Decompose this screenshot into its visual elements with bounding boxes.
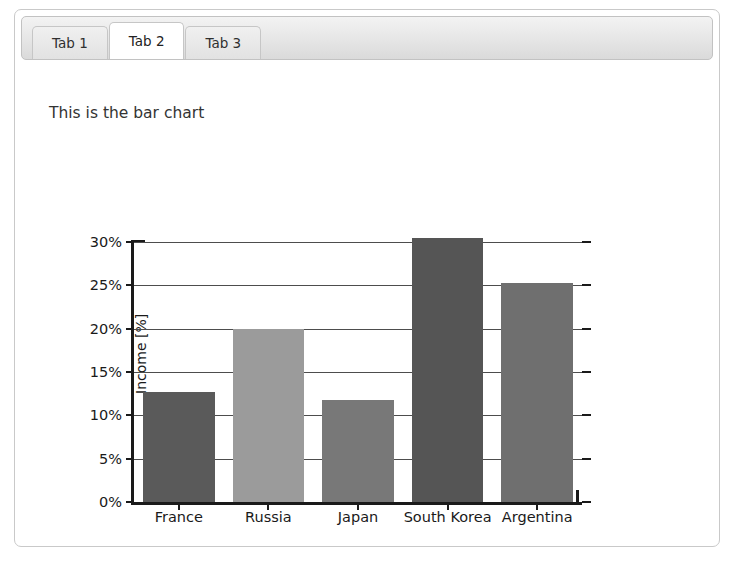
bar xyxy=(412,238,484,502)
y-axis-tick xyxy=(126,328,134,330)
tab-bar: Tab 1 Tab 2 Tab 3 xyxy=(21,16,713,60)
y-axis-tick xyxy=(126,371,134,373)
y-axis-tick xyxy=(126,501,134,503)
tab-content-panel: This is the bar chart Income [%] 0%5%10%… xyxy=(21,60,713,540)
tab-2[interactable]: Tab 2 xyxy=(109,22,185,59)
bar xyxy=(322,400,394,502)
y-axis-tick xyxy=(126,241,134,243)
bar xyxy=(501,283,573,502)
bar-chart: Income [%] 0%5%10%15%20%25%30% FranceRus… xyxy=(47,222,595,514)
y-axis-tick-label: 10% xyxy=(90,407,122,423)
x-axis-tick-label: Russia xyxy=(245,509,292,525)
y-axis-tick-label: 20% xyxy=(90,321,122,337)
y-axis-tick-label: 25% xyxy=(90,277,122,293)
bar xyxy=(143,392,215,502)
tab-strip: Tab 1 Tab 2 Tab 3 xyxy=(32,22,262,59)
y-axis-tick-right xyxy=(582,241,591,243)
bar xyxy=(233,329,305,502)
x-axis-tick-label: South Korea xyxy=(404,509,492,525)
tab-3[interactable]: Tab 3 xyxy=(185,26,261,59)
y-axis-tick-right xyxy=(582,501,591,503)
y-axis-tick-label: 5% xyxy=(99,451,122,467)
y-axis-tick-right xyxy=(582,458,591,460)
y-axis-tick-label: 0% xyxy=(99,494,122,510)
tab-1[interactable]: Tab 1 xyxy=(32,26,108,59)
y-axis-tick-right xyxy=(582,371,591,373)
tab-panel: Tab 1 Tab 2 Tab 3 This is the bar chart … xyxy=(14,9,720,547)
y-axis-tick-right xyxy=(582,414,591,416)
y-axis-tick xyxy=(126,458,134,460)
x-axis-tick-label: France xyxy=(155,509,203,525)
plot-area: 0%5%10%15%20%25%30% FranceRussiaJapanSou… xyxy=(131,242,582,505)
x-axis-tick-label: Argentina xyxy=(502,509,573,525)
y-axis-tick-label: 30% xyxy=(90,234,122,250)
page-title: This is the bar chart xyxy=(49,104,204,122)
y-axis-tick-label: 15% xyxy=(90,364,122,380)
y-axis-tick-right xyxy=(582,284,591,286)
y-axis-tick xyxy=(126,414,134,416)
y-axis-tick-right xyxy=(582,328,591,330)
bar-series xyxy=(134,242,582,502)
x-axis-tick-label: Japan xyxy=(338,509,378,525)
y-axis-tick xyxy=(126,284,134,286)
